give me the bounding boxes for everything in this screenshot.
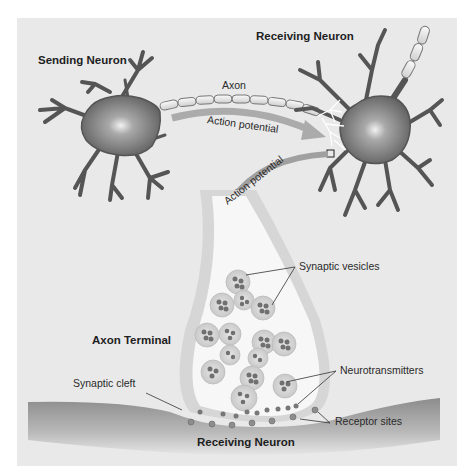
label-neurotransmitters: Neurotransmitters: [340, 365, 423, 376]
label-synaptic-cleft: Synaptic cleft: [73, 378, 135, 389]
label-synaptic-vesicles: Synaptic vesicles: [299, 261, 380, 272]
synapse-diagram: Sending Neuron Receiving Neuron Axon Act…: [0, 0, 469, 475]
label-receiving-neuron-top: Receiving Neuron: [256, 31, 354, 43]
label-axon: Axon: [222, 80, 246, 91]
sending-neuron-soma: [81, 95, 160, 155]
label-receiving-neuron-bottom: Receiving Neuron: [197, 437, 295, 449]
label-receptor-sites: Receptor sites: [335, 416, 402, 427]
diagram-canvas: [0, 0, 469, 475]
label-axon-terminal: Axon Terminal: [92, 335, 171, 347]
label-sending-neuron: Sending Neuron: [38, 55, 127, 67]
